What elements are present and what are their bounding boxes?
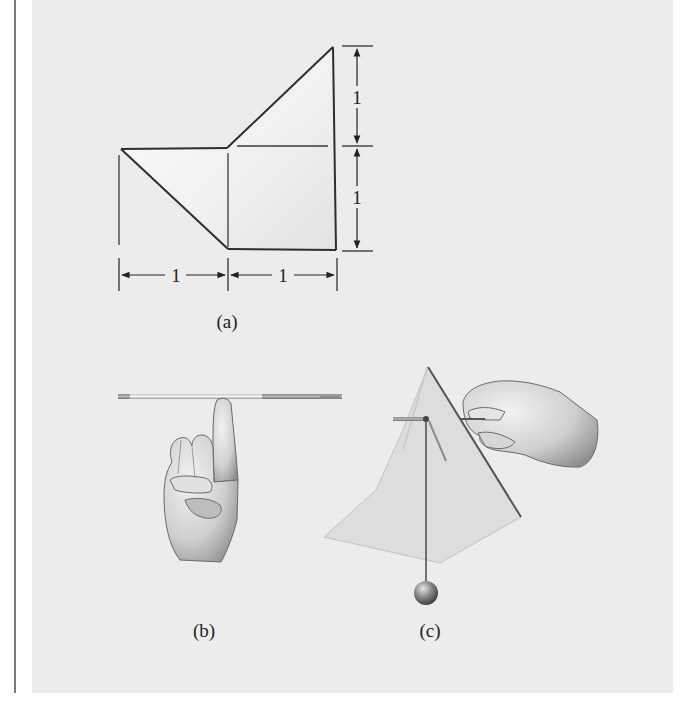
rod-fragment xyxy=(320,396,340,399)
dim-label-vertical-bottom: 1 xyxy=(352,187,362,208)
vertical-dimension xyxy=(342,46,373,251)
panel-a-cutout-diagram: 1 1 1 1 (a) xyxy=(119,46,373,333)
dim-label-horizontal-left: 1 xyxy=(171,265,181,286)
horizontal-dimension xyxy=(119,258,337,291)
panel-c-suspended-cutout: (c) xyxy=(320,367,598,642)
caption-b: (b) xyxy=(193,620,215,642)
figure-canvas: 1 1 1 1 (a) xyxy=(0,0,698,715)
panel-b-finger-balance: (b) xyxy=(118,394,342,642)
balanced-rod xyxy=(118,394,342,399)
hand-icon xyxy=(164,398,238,562)
plumb-bob xyxy=(414,581,438,605)
dim-label-vertical-top: 1 xyxy=(352,87,362,108)
dim-label-horizontal-right: 1 xyxy=(278,265,288,286)
caption-c: (c) xyxy=(419,620,440,642)
caption-a: (a) xyxy=(216,311,237,333)
